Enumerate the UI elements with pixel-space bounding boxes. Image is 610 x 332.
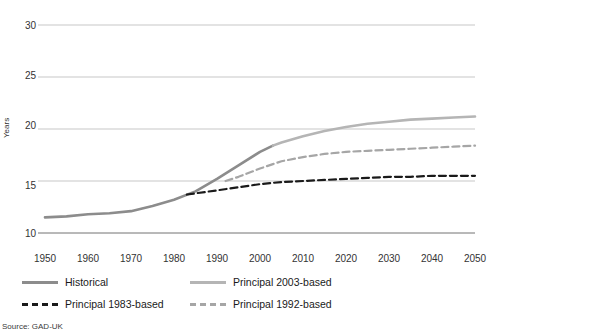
series-line [45, 146, 273, 218]
chart-legend: Historical Principal 2003-based Principa… [22, 276, 492, 318]
series-line [273, 117, 475, 146]
source-note: Source: GAD-UK [2, 322, 63, 331]
legend-label-principal-1992: Principal 1992-based [233, 298, 332, 310]
legend-label-historical: Historical [65, 276, 108, 288]
chart-container: Years 30 25 20 15 10 1950 1960 1970 1980… [0, 0, 610, 332]
legend-swatch-historical [22, 281, 58, 284]
legend-item-principal-2003: Principal 2003-based [190, 276, 332, 288]
legend-item-principal-1983: Principal 1983-based [22, 298, 164, 310]
legend-swatch-principal-1983 [22, 303, 58, 306]
legend-item-historical: Historical [22, 276, 108, 288]
legend-swatch-principal-1992 [190, 303, 226, 306]
legend-item-principal-1992: Principal 1992-based [190, 298, 332, 310]
legend-label-principal-1983: Principal 1983-based [65, 298, 164, 310]
legend-label-principal-2003: Principal 2003-based [233, 276, 332, 288]
legend-swatch-principal-2003 [190, 281, 226, 284]
